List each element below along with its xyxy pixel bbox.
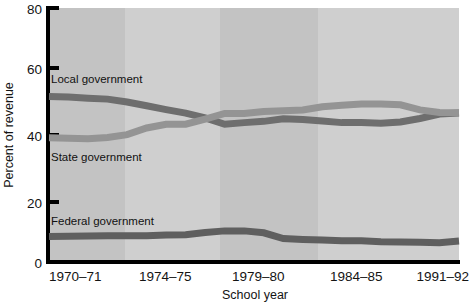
y-tick-label-60: 60 bbox=[27, 62, 42, 77]
background-band-1979-1984 bbox=[220, 8, 318, 262]
chart-figure: 80 60 40 20 0 Percent of revenue 1970–71… bbox=[0, 0, 471, 305]
y-tick-label-0: 0 bbox=[34, 256, 42, 271]
y-tick-label-40: 40 bbox=[27, 129, 42, 144]
x-axis-title: School year bbox=[222, 288, 288, 302]
x-tick-label-1974-75: 1974–75 bbox=[139, 269, 192, 284]
y-tick-label-20: 20 bbox=[27, 196, 42, 211]
x-tick-label-1991-92: 1991–92 bbox=[416, 269, 469, 284]
revenue-source-line-chart: 80 60 40 20 0 Percent of revenue 1970–71… bbox=[0, 0, 471, 305]
x-tick-label-1984-85: 1984–85 bbox=[330, 269, 383, 284]
series-label-local-government: Local government bbox=[51, 73, 143, 85]
y-tick-label-80: 80 bbox=[27, 2, 42, 17]
series-label-state-government: State government bbox=[51, 151, 143, 163]
series-label-federal-government: Federal government bbox=[51, 215, 155, 227]
x-tick-label-1970-71: 1970–71 bbox=[49, 269, 102, 284]
background-band-1984-1991 bbox=[318, 8, 459, 262]
x-tick-label-1979-80: 1979–80 bbox=[232, 269, 285, 284]
y-axis-title: Percent of revenue bbox=[2, 82, 16, 188]
